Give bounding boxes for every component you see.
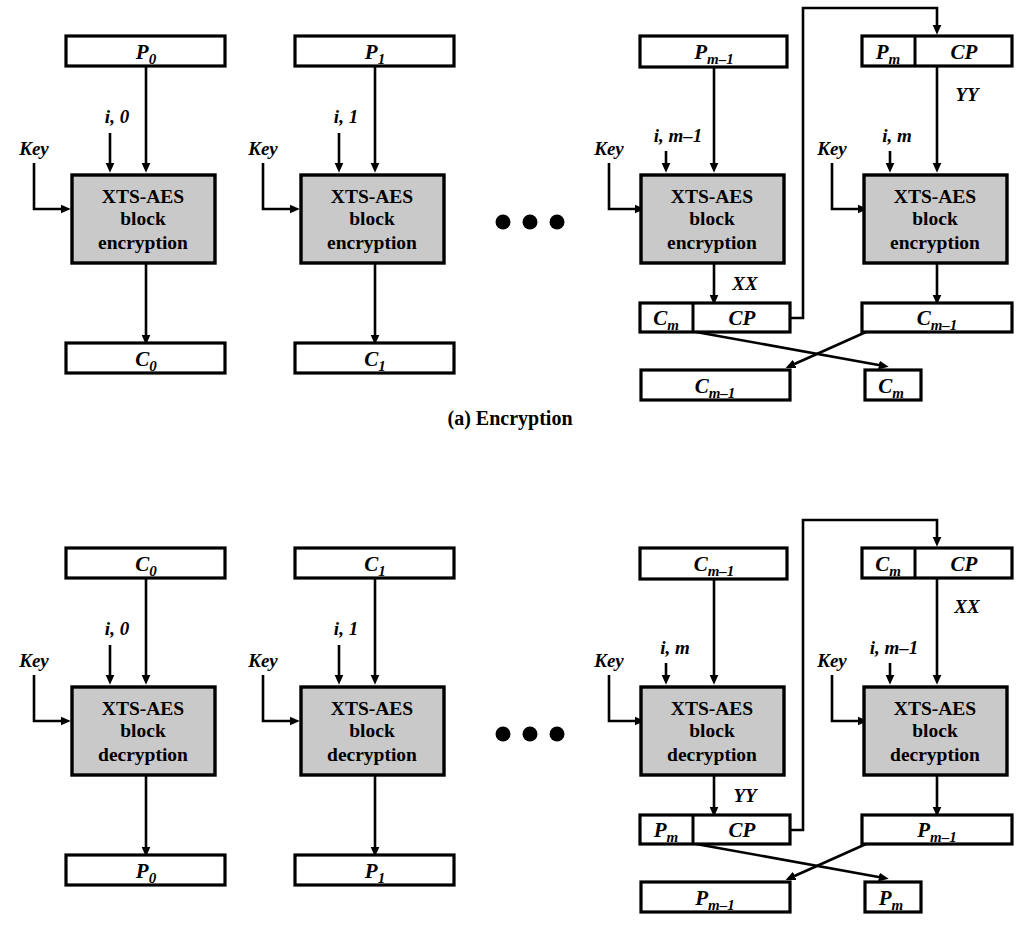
enc-block-1-line1: XTS-AES — [331, 186, 414, 207]
enc-ellipsis-dot-3 — [550, 215, 565, 230]
enc-key-m1-label: Key — [593, 138, 624, 159]
dec-key-m1-arrow — [832, 675, 863, 721]
enc-block-m1-line1: XTS-AES — [671, 186, 754, 207]
dec-key-m-arrow — [609, 675, 640, 721]
enc-key-m-label: Key — [816, 138, 847, 159]
encryption-caption: (a) Encryption — [448, 407, 573, 430]
enc-ellipsis — [496, 215, 565, 230]
dec-tweak-m1-label: i, m–1 — [870, 637, 919, 658]
dec-block-0-line1: XTS-AES — [102, 698, 185, 719]
enc-block-m-line3: encryption — [890, 232, 980, 253]
dec-block-0-line3: decryption — [98, 744, 188, 765]
enc-key-0-label: Key — [18, 138, 49, 159]
dec-stage-m-minus-1: Cm CP XX i, m–1 Key XTS-AES block decryp… — [816, 548, 1012, 913]
dec-cp-right-label: CP — [729, 818, 756, 842]
enc-key-1-label: Key — [247, 138, 278, 159]
enc-key-m-arrow — [832, 163, 863, 209]
enc-key-m1-arrow — [609, 163, 640, 209]
enc-stage-m-minus-1: Pm–1 i, m–1 Key XTS-AES block encryption… — [593, 36, 790, 401]
enc-key-1-arrow — [263, 163, 295, 209]
dec-yy-label: YY — [733, 785, 759, 806]
enc-ellipsis-dot-2 — [523, 215, 538, 230]
enc-block-m1-line3: encryption — [667, 232, 757, 253]
dec-block-m1-line1: XTS-AES — [894, 698, 977, 719]
dec-ellipsis-dot-2 — [523, 727, 538, 742]
dec-block-1-line3: decryption — [327, 744, 417, 765]
enc-tweak-m1-label: i, m–1 — [654, 125, 703, 146]
enc-key-0-arrow — [34, 163, 66, 209]
dec-ellipsis-dot-3 — [550, 727, 565, 742]
dec-ellipsis — [496, 727, 565, 742]
enc-stage-m: Pm CP YY i, m Key XTS-AES block encrypti… — [816, 36, 1012, 401]
enc-tweak-m-label: i, m — [882, 125, 912, 146]
dec-key-m1-label: Key — [816, 650, 847, 671]
figure-canvas: P0 i, 0 Key XTS-AES block encryption C0 … — [0, 0, 1036, 939]
dec-key-0-arrow — [34, 675, 66, 721]
dec-block-1-line1: XTS-AES — [331, 698, 414, 719]
enc-ellipsis-dot-1 — [496, 215, 511, 230]
dec-tweak-1-label: i, 1 — [334, 618, 358, 639]
dec-tweak-m-label: i, m — [660, 637, 690, 658]
dec-block-m-line1: XTS-AES — [671, 698, 754, 719]
dec-tweak-0-label: i, 0 — [105, 618, 130, 639]
encryption-diagram: P0 i, 0 Key XTS-AES block encryption C0 … — [18, 8, 1012, 430]
enc-block-0-line2: block — [120, 208, 166, 229]
enc-block-0-line1: XTS-AES — [102, 186, 185, 207]
dec-key-0-label: Key — [18, 650, 49, 671]
enc-tweak-1-label: i, 1 — [334, 106, 358, 127]
enc-yy-label: YY — [955, 84, 981, 105]
decryption-diagram: C0 i, 0 Key XTS-AES block decryption P0 … — [18, 520, 1012, 913]
dec-block-m-line2: block — [689, 720, 735, 741]
dec-key-1-arrow — [263, 675, 295, 721]
dec-block-m1-line3: decryption — [890, 744, 980, 765]
dec-block-1-line2: block — [349, 720, 395, 741]
dec-block-m-line3: decryption — [667, 744, 757, 765]
dec-ellipsis-dot-1 — [496, 727, 511, 742]
enc-tweak-0-label: i, 0 — [105, 106, 130, 127]
enc-cp-right-label: CP — [729, 306, 756, 330]
enc-xx-label: XX — [731, 273, 759, 294]
dec-stage-m: Cm–1 i, m Key XTS-AES block decryption Y… — [593, 548, 790, 913]
dec-key-m-label: Key — [593, 650, 624, 671]
enc-block-m1-line2: block — [689, 208, 735, 229]
enc-block-1-line3: encryption — [327, 232, 417, 253]
enc-block-m-line2: block — [912, 208, 958, 229]
dec-block-0-line2: block — [120, 720, 166, 741]
enc-stage-0: P0 i, 0 Key XTS-AES block encryption C0 — [18, 36, 225, 374]
enc-block-1-line2: block — [349, 208, 395, 229]
dec-cm-cp-right-label: CP — [951, 552, 978, 576]
dec-stage-1: C1 i, 1 Key XTS-AES block decryption P1 — [247, 548, 454, 886]
enc-block-m-line1: XTS-AES — [894, 186, 977, 207]
enc-stage-1: P1 i, 1 Key XTS-AES block encryption C1 — [247, 36, 454, 374]
dec-key-1-label: Key — [247, 650, 278, 671]
dec-stage-0: C0 i, 0 Key XTS-AES block decryption P0 — [18, 548, 225, 886]
dec-xx-label: XX — [953, 596, 981, 617]
enc-block-0-line3: encryption — [98, 232, 188, 253]
dec-block-m1-line2: block — [912, 720, 958, 741]
enc-pm-cp-right-label: CP — [951, 40, 978, 64]
